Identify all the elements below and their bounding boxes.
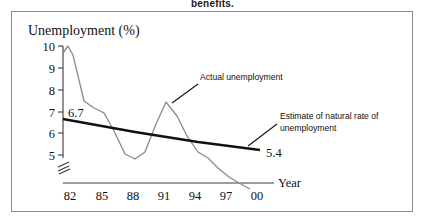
series-actual-unemployment — [63, 46, 250, 189]
annotation-actual-unemployment: Actual unemployment — [200, 72, 283, 82]
annotation-natural-rate-line1: Estimate of natural rate of — [280, 111, 379, 121]
y-tick-label-8: 8 — [49, 84, 55, 98]
clipped-text-above-figure: benefits. — [0, 0, 425, 9]
series-natural-rate — [63, 119, 260, 150]
x-axis-name: Year — [278, 176, 302, 190]
y-tick-label-9: 9 — [49, 62, 55, 76]
figure-frame: Unemployment (%) 10 9 8 7 6 5 — [11, 11, 413, 212]
y-tick-label-6: 6 — [49, 127, 55, 141]
x-tick-label-82: 82 — [64, 189, 77, 203]
x-tick-label-94: 94 — [189, 189, 202, 203]
clipped-text: benefits. — [191, 0, 234, 8]
annotation-natural-rate-line2: unemployment — [280, 123, 337, 133]
y-tick-label-7: 7 — [49, 106, 55, 120]
x-tick-label-85: 85 — [96, 189, 109, 203]
x-tick-label-91: 91 — [158, 189, 171, 203]
natural-rate-leader-line — [248, 124, 277, 146]
actual-unemployment-leader-line — [172, 84, 198, 103]
chart-stage: Unemployment (%) 10 9 8 7 6 5 — [12, 12, 414, 213]
end-value-label: 5.4 — [266, 146, 282, 160]
y-tick-label-10: 10 — [43, 40, 56, 54]
y-tick-label-5: 5 — [49, 149, 55, 163]
x-tick-label-97: 97 — [220, 189, 233, 203]
y-axis-ticks — [58, 46, 63, 155]
x-tick-label-00: 00 — [251, 189, 264, 203]
unemployment-line-chart: 10 9 8 7 6 5 82 85 88 91 94 97 00 Year — [12, 12, 414, 213]
start-value-label: 6.7 — [68, 106, 84, 120]
axis-break-icon — [58, 162, 70, 174]
x-tick-label-88: 88 — [127, 189, 140, 203]
